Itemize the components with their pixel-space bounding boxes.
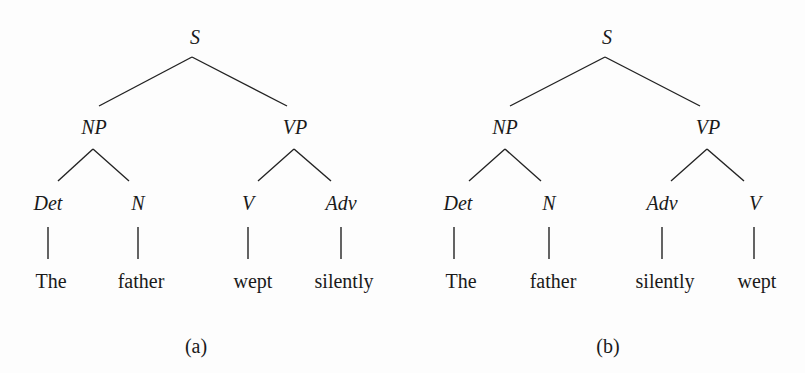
edge-np-det [58, 149, 93, 181]
word-silently: silently [636, 270, 695, 293]
syntax-tree-figure: S NP VP Det N V Adv The father wept sile… [0, 0, 805, 373]
edge-np-n [93, 149, 129, 181]
edge-vp-adv [671, 149, 707, 181]
edge-np-n [505, 149, 541, 181]
node-adv: Adv [323, 192, 356, 214]
edge-s-np [510, 57, 605, 106]
tree-a: S NP VP Det N V Adv The father wept sile… [33, 26, 374, 358]
node-vp: VP [283, 116, 307, 138]
edge-np-det [469, 149, 505, 181]
caption-b: (b) [596, 335, 619, 358]
word-father: father [530, 270, 577, 292]
node-det: Det [33, 192, 63, 214]
word-wept: wept [234, 270, 273, 293]
node-v: V [242, 192, 257, 214]
word-silently: silently [315, 270, 374, 293]
caption-a: (a) [185, 335, 207, 358]
node-s: S [190, 26, 200, 48]
word-the: The [445, 270, 476, 292]
edge-s-vp [605, 57, 700, 106]
node-n: N [130, 192, 146, 214]
edge-vp-v [707, 149, 744, 181]
node-s: S [602, 26, 612, 48]
node-np: NP [80, 116, 107, 138]
node-v: V [749, 192, 764, 214]
tree-b: S NP VP Det N Adv V The father silently … [443, 26, 777, 358]
edge-vp-v [258, 149, 294, 181]
node-n: N [541, 192, 557, 214]
word-father: father [118, 270, 165, 292]
edge-vp-adv [294, 149, 331, 181]
word-the: The [35, 270, 66, 292]
edge-s-np [99, 57, 192, 106]
word-wept: wept [738, 270, 777, 293]
node-det: Det [443, 192, 473, 214]
node-vp: VP [696, 116, 720, 138]
node-adv: Adv [644, 192, 677, 214]
edge-s-vp [192, 57, 287, 106]
node-np: NP [491, 116, 518, 138]
